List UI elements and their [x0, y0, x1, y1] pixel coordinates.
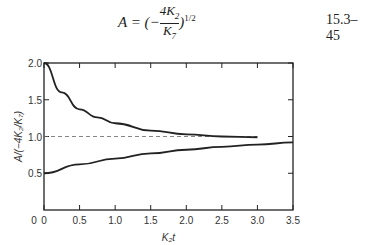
x-tick-label: 3.0 [250, 215, 264, 226]
curve-lower [44, 142, 293, 173]
x-tick-label: 2.0 [179, 215, 193, 226]
x-tick-label: 2.5 [215, 215, 229, 226]
origin-label: 0 [31, 215, 37, 226]
y-tick-label: 0.5 [28, 168, 42, 179]
y-tick-label: 2.0 [28, 58, 42, 69]
x-tick-label: 0 [41, 215, 47, 226]
x-tick-label: 3.5 [286, 215, 300, 226]
y-axis-label: A/(−4K₂/K₇) [13, 111, 24, 163]
curve-upper [44, 63, 257, 137]
chart: 00.51.01.52.02.53.03.50.51.01.52.00K₂tA/… [0, 0, 370, 245]
x-tick-label: 1.0 [108, 215, 122, 226]
x-axis-label: K₂t [162, 232, 176, 243]
x-tick-label: 0.5 [73, 215, 87, 226]
y-tick-label: 1.0 [28, 132, 42, 143]
y-tick-label: 1.5 [28, 95, 42, 106]
x-tick-label: 1.5 [144, 215, 158, 226]
